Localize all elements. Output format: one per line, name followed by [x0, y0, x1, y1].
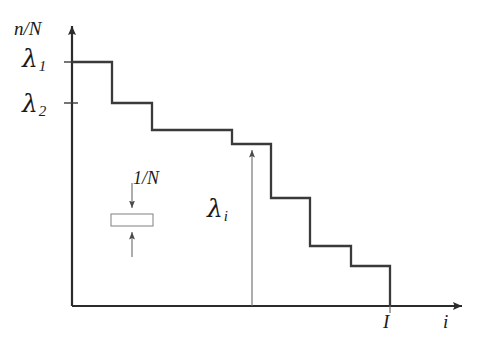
lambda-glyph: λ [207, 194, 223, 223]
x-axis-label: i [443, 312, 448, 331]
lambda-i-subscript: i [224, 208, 228, 224]
y-tick-label-lambda2: λ2 [22, 91, 46, 119]
y-tick-label-lambda1: λ1 [22, 46, 46, 74]
y-axis-label: n/N [14, 19, 41, 38]
bin-height-box [111, 214, 153, 226]
step-diagram-figure: n/N i λ1 λ2 λi I 1/N [0, 0, 493, 355]
bin-height-label: 1/N [133, 169, 159, 187]
diagram-canvas [0, 0, 493, 355]
lambda-i-label: λi [207, 196, 228, 224]
x-tick-label-capital-i: I [383, 312, 389, 331]
lambda-glyph: λ [22, 44, 38, 73]
lambda2-subscript: 2 [39, 103, 47, 119]
lambda-glyph: λ [22, 89, 38, 118]
lambda1-subscript: 1 [39, 58, 47, 74]
staircase-curve [72, 62, 390, 306]
